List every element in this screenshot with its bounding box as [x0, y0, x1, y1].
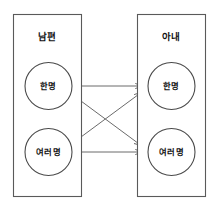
husband-many-label: 여러명	[36, 147, 60, 157]
diagram-canvas: 남편 아내 한명 여러명 한명 여러명	[0, 0, 220, 210]
cardinality-diagram: 남편 아내 한명 여러명 한명 여러명	[0, 0, 220, 210]
node-husband-one[interactable]: 한명	[25, 63, 72, 110]
node-wife-many[interactable]: 여러명	[148, 129, 195, 176]
node-husband-many[interactable]: 여러명	[25, 129, 72, 176]
wife-one-label: 한명	[163, 81, 179, 91]
node-wife-one[interactable]: 한명	[148, 63, 195, 110]
husband-box-title: 남편	[38, 31, 56, 42]
husband-one-label: 한명	[40, 81, 56, 91]
wife-many-label: 여러명	[159, 147, 183, 157]
wife-box-title: 아내	[162, 31, 180, 42]
